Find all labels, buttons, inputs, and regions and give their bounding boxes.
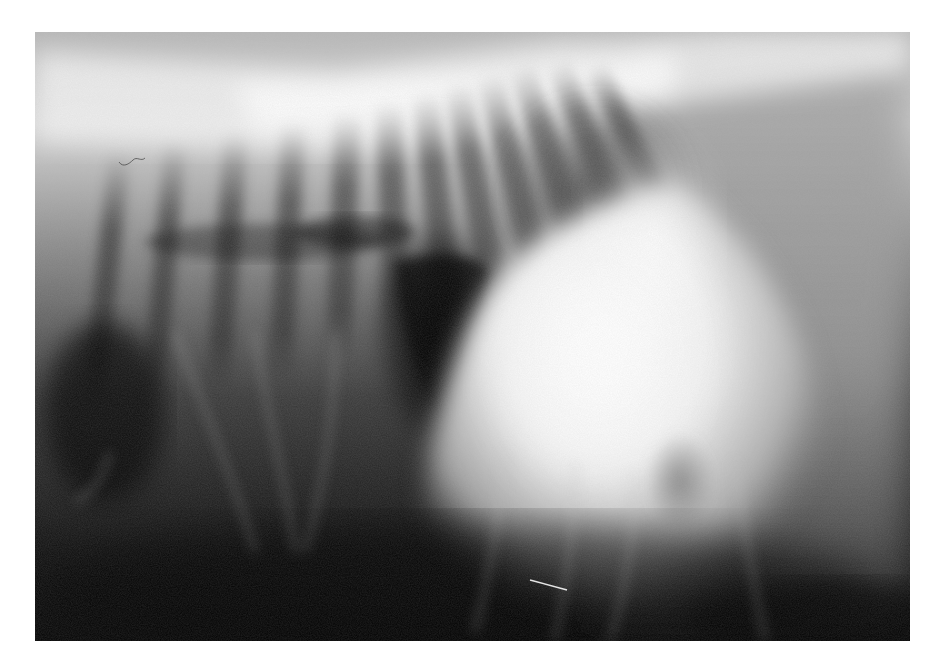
thoracic-radiograph [35,32,910,641]
radiograph-image [35,32,910,641]
page-background [0,0,934,661]
